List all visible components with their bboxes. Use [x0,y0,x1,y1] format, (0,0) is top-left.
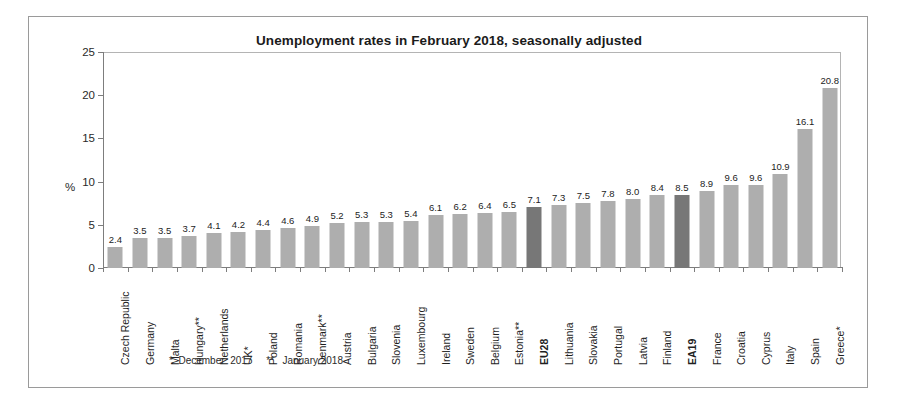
bar-value-label: 6.2 [454,201,467,212]
bar-group[interactable]: 5.3 [374,52,399,268]
category-label[interactable]: Greece* [834,326,846,365]
category-label[interactable]: Belgium [489,327,501,365]
bar[interactable] [674,195,689,268]
bar[interactable] [280,228,295,268]
bar-group[interactable]: 7.3 [546,52,571,268]
bar-group[interactable]: 8.4 [645,52,670,268]
bar[interactable] [108,247,123,268]
bar[interactable] [132,238,147,268]
category-label[interactable]: Bulgaria [366,326,378,365]
category-label[interactable]: Finland [661,331,673,365]
y-axis-tick-label: 15 [61,132,95,144]
y-axis-tick-label: 25 [61,46,95,58]
bar[interactable] [403,221,418,268]
bar[interactable] [798,129,813,268]
bar-group[interactable]: 5.4 [399,52,424,268]
bar-group[interactable]: 6.2 [448,52,473,268]
bar[interactable] [724,185,739,268]
bar-value-label: 5.3 [355,209,368,220]
bar[interactable] [773,174,788,268]
bar-group[interactable]: 3.7 [177,52,202,268]
category-label[interactable]: Germany [144,322,156,365]
bar-value-label: 7.3 [552,192,565,203]
bar[interactable] [305,226,320,268]
bar[interactable] [600,201,615,268]
y-axis-tick-label: 5 [61,219,95,231]
bar-group[interactable]: 4.9 [300,52,325,268]
bar-value-label: 8.9 [700,178,713,189]
bar-group[interactable]: 7.8 [596,52,621,268]
category-label[interactable]: Italy [784,346,796,365]
bar[interactable] [231,232,246,268]
bar-group[interactable]: 3.5 [128,52,153,268]
bar-value-label: 3.5 [133,225,146,236]
category-label[interactable]: Estonia** [513,322,525,365]
bar-group[interactable]: 20.8 [817,52,842,268]
bar-value-label: 5.3 [380,209,393,220]
category-label[interactable]: Lithuania [563,322,575,365]
category-label[interactable]: France [711,332,723,365]
bar-group[interactable]: 4.4 [251,52,276,268]
bar-group[interactable]: 6.5 [497,52,522,268]
bar-value-label: 4.6 [281,215,294,226]
bar[interactable] [748,185,763,268]
bar-group[interactable]: 10.9 [768,52,793,268]
bar-group[interactable]: 16.1 [793,52,818,268]
bar-value-label: 4.4 [257,217,270,228]
category-label[interactable]: Latvia [637,337,649,365]
category-label[interactable]: Sweden [464,327,476,365]
bar[interactable] [527,207,542,268]
bar[interactable] [699,191,714,268]
category-label[interactable]: Spain [809,338,821,365]
bar[interactable] [206,233,221,268]
bar[interactable] [182,236,197,268]
category-label[interactable]: Cyprus [760,332,772,365]
bar-group[interactable]: 4.2 [226,52,251,268]
bar-value-label: 6.1 [429,202,442,213]
category-label[interactable]: Slovenia [390,325,402,365]
bar[interactable] [822,88,837,268]
bar[interactable] [551,205,566,268]
bar[interactable] [625,199,640,268]
bars-layer: 2.43.53.53.74.14.24.44.64.95.25.35.35.46… [103,52,842,268]
bar[interactable] [354,222,369,268]
bar-group[interactable]: 8.9 [694,52,719,268]
bar[interactable] [379,222,394,268]
bar[interactable] [428,215,443,268]
category-label[interactable]: Portugal [612,326,624,365]
category-label[interactable]: EA19 [686,339,698,365]
bar[interactable] [256,230,271,268]
bar-group[interactable]: 8.0 [620,52,645,268]
category-label[interactable]: Czech Republic [119,291,131,365]
bar-value-label: 10.9 [771,161,790,172]
bar-group[interactable]: 5.3 [349,52,374,268]
x-axis-tick [842,267,843,272]
category-label[interactable]: Ireland [440,333,452,365]
bar-group[interactable]: 2.4 [103,52,128,268]
bar-group[interactable]: 9.6 [719,52,744,268]
bar-group[interactable]: 3.5 [152,52,177,268]
category-label[interactable]: Slovakia [587,325,599,365]
bar[interactable] [157,238,172,268]
bar[interactable] [576,203,591,268]
bar-group[interactable]: 4.6 [275,52,300,268]
bar[interactable] [502,212,517,268]
bar[interactable] [650,195,665,268]
category-label[interactable]: Luxembourg [415,307,427,365]
bar-group[interactable]: 7.1 [522,52,547,268]
bar-group[interactable]: 4.1 [202,52,227,268]
category-label[interactable]: Croatia [735,331,747,365]
bar-value-label: 3.7 [183,223,196,234]
bar-group[interactable]: 9.6 [743,52,768,268]
bar-group[interactable]: 7.5 [571,52,596,268]
bar-group[interactable]: 5.2 [325,52,350,268]
category-label[interactable]: EU28 [538,339,550,365]
bar-value-label: 9.6 [749,172,762,183]
y-axis-tick-label: 0 [61,262,95,274]
bar[interactable] [330,223,345,268]
bar-group[interactable]: 6.1 [423,52,448,268]
bar-group[interactable]: 6.4 [473,52,498,268]
bar[interactable] [453,214,468,268]
bar-group[interactable]: 8.5 [670,52,695,268]
bar[interactable] [477,213,492,268]
